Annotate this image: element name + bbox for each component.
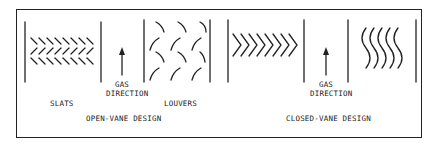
slats-label: SLATS xyxy=(50,99,74,108)
louvers-label: LOUVERS xyxy=(164,99,197,108)
gas-label-text: GAS xyxy=(310,80,342,89)
louvers-icon xyxy=(150,22,206,80)
gas-label-closed: GAS DIRECTION xyxy=(310,80,342,98)
direction-label-text: DIRECTION xyxy=(310,89,342,98)
closed-vane-title: CLOSED-VANE DESIGN xyxy=(286,114,371,123)
vane-diagram xyxy=(0,0,440,147)
gas-label-text: GAS xyxy=(106,80,138,89)
slats-icon xyxy=(31,38,93,64)
gas-label-open: GAS DIRECTION xyxy=(106,80,138,98)
arrow-head-icon xyxy=(323,47,329,55)
chevron-vanes-icon xyxy=(233,34,297,56)
arrow-head-icon xyxy=(119,47,125,55)
wavy-vanes-icon xyxy=(362,28,402,68)
open-vane-title: OPEN-VANE DESIGN xyxy=(86,114,161,123)
direction-label-text: DIRECTION xyxy=(106,89,138,98)
